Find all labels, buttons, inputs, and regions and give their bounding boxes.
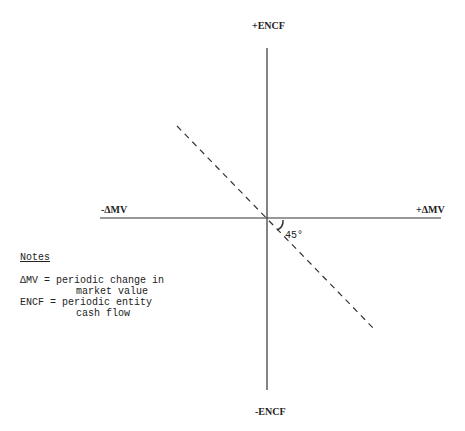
x-negative-label: -ΔMV	[101, 204, 127, 215]
note-term: ΔMV	[20, 275, 38, 286]
note-item: ENCF = periodic entity cash flow	[20, 297, 164, 319]
y-negative-label: -ENCF	[255, 406, 286, 417]
note-def-line2: market value	[20, 286, 164, 297]
note-def-line2: cash flow	[20, 308, 164, 319]
note-item: ΔMV = periodic change in market value	[20, 275, 164, 297]
y-positive-label: +ENCF	[252, 20, 285, 31]
dashed-45-line	[177, 126, 376, 331]
note-sep: =	[44, 297, 62, 308]
axes-diagram	[0, 0, 465, 431]
note-def-line1: periodic change in	[56, 275, 164, 286]
x-positive-label: +ΔMV	[416, 204, 445, 215]
notes-title: Notes	[20, 252, 164, 263]
note-def-line1: periodic entity	[62, 297, 152, 308]
note-term: ENCF	[20, 297, 44, 308]
notes-block: Notes ΔMV = periodic change in market va…	[20, 252, 164, 319]
angle-label: 45°	[285, 230, 303, 241]
angle-arc	[277, 220, 283, 230]
note-sep: =	[38, 275, 56, 286]
